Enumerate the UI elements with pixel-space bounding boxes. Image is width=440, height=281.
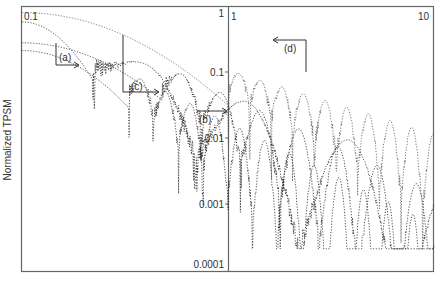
y-tick-0.001: 0.001	[199, 199, 224, 210]
plot-frame	[22, 7, 434, 272]
x-tick-1: 1	[231, 11, 237, 22]
y-axis-label: Normalized TPSM	[2, 100, 13, 181]
x-tick-10: 10	[418, 11, 430, 22]
y-ticks	[225, 72, 228, 204]
annotation-b-label: (b)	[199, 114, 211, 125]
annotation-a-label: (a)	[59, 52, 71, 63]
y-tick-1: 1	[218, 8, 224, 19]
y-tick-0.1: 0.1	[210, 67, 224, 78]
annotation-c-label: (c)	[131, 81, 143, 92]
tpsm-chart: 1 0.1 0.01 0.001 0.0001 0.1 1 10 Normali…	[0, 0, 440, 281]
annotation-d-label: (d)	[284, 43, 296, 54]
y-tick-0.0001: 0.0001	[193, 259, 224, 270]
